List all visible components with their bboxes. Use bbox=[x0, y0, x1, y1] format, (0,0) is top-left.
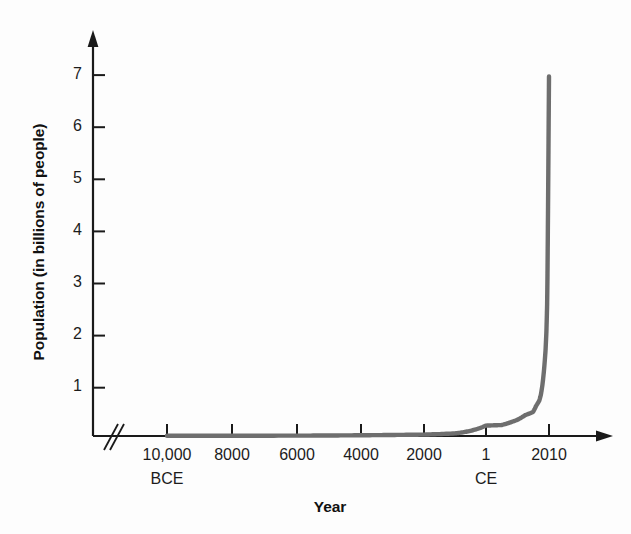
population-growth-chart: Population (in billions of people) Year … bbox=[0, 0, 631, 534]
x-axis-arrowhead-icon bbox=[596, 431, 613, 442]
y-tick-label-7: 7 bbox=[60, 65, 82, 83]
y-tick-label-5: 5 bbox=[60, 169, 82, 187]
y-tick-label-6: 6 bbox=[60, 117, 82, 135]
population-line-series bbox=[167, 77, 549, 436]
y-tick-label-4: 4 bbox=[60, 221, 82, 239]
era-label-ce: CE bbox=[456, 470, 516, 488]
era-label-bce: BCE bbox=[137, 470, 197, 488]
y-tick-label-1: 1 bbox=[60, 377, 82, 395]
y-tick-label-2: 2 bbox=[60, 325, 82, 343]
y-axis-arrowhead-icon bbox=[88, 30, 99, 47]
y-axis-ticks bbox=[93, 75, 105, 388]
x-axis-title: Year bbox=[270, 498, 390, 516]
x-tick-label-2010: 2010 bbox=[509, 446, 589, 464]
y-axis-title: Population (in billions of people) bbox=[26, 22, 52, 462]
y-tick-label-3: 3 bbox=[60, 273, 82, 291]
